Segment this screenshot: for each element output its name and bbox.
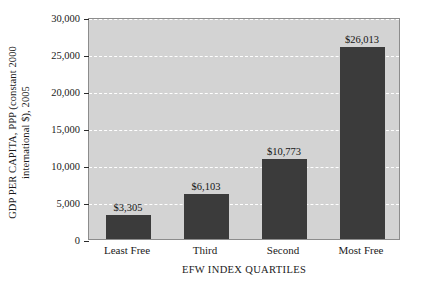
bar-value-label: $6,103 [192, 181, 221, 193]
bar [106, 215, 151, 239]
y-axis-tick-label: 15,000 [51, 124, 80, 135]
y-axis-tick-labels: 05,00010,00015,00020,00025,00030,000 [38, 0, 84, 294]
y-axis-tick-mark [84, 130, 89, 131]
y-axis-tick-mark [84, 93, 89, 94]
y-axis-tick-mark [84, 56, 89, 57]
y-axis-title-container: GDP PER CAPITA, PPP (constant 2000 inter… [0, 0, 38, 294]
y-axis-tick-label: 5,000 [56, 198, 80, 209]
bar-value-label: $26,013 [345, 34, 379, 46]
x-axis-tick-label: Least Free [104, 243, 150, 257]
y-axis-tick-mark [84, 167, 89, 168]
y-axis-tick-mark [84, 19, 89, 20]
bar-chart-figure: GDP PER CAPITA, PPP (constant 2000 inter… [0, 0, 427, 294]
x-axis-tick-labels: Least FreeThirdSecondMost Free [88, 243, 400, 261]
x-axis-tick-label: Most Free [339, 243, 384, 257]
y-axis-title: GDP PER CAPITA, PPP (constant 2000 inter… [7, 9, 32, 257]
x-axis-tick-label: Third [193, 243, 217, 257]
y-axis-tick-mark [84, 241, 89, 242]
x-axis-title: EFW INDEX QUARTILES [88, 264, 400, 275]
bar [340, 47, 385, 239]
y-axis-tick-mark [84, 204, 89, 205]
x-axis-tick-label: Second [267, 243, 299, 257]
bar-value-label: $3,305 [114, 202, 143, 214]
bar [262, 159, 307, 239]
y-axis-title-line-2: international $), 2005 [19, 9, 32, 257]
bar [184, 194, 229, 239]
y-axis-title-line-1: GDP PER CAPITA, PPP (constant 2000 [7, 9, 20, 257]
gridline [89, 19, 399, 20]
bar-value-label: $10,773 [267, 146, 301, 158]
y-axis-tick-label: 10,000 [51, 161, 80, 172]
y-axis-tick-label: 20,000 [51, 87, 80, 98]
y-axis-tick-label: 0 [75, 235, 80, 246]
y-axis-tick-label: 30,000 [51, 13, 80, 24]
plot-area: $3,305$6,103$10,773$26,013 [88, 18, 400, 240]
y-axis-tick-label: 25,000 [51, 50, 80, 61]
